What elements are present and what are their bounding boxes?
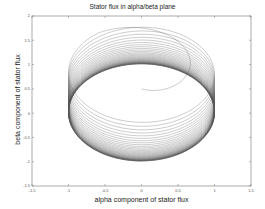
x-tick-label: -1.5 — [29, 188, 37, 193]
x-tick-label: 1.5 — [248, 188, 254, 193]
x-tick-label: 0.5 — [175, 188, 181, 193]
y-tick-label: -1 — [26, 159, 30, 164]
y-tick-label: 1 — [28, 62, 31, 67]
y-axis-label: beta component of stator flux — [14, 25, 21, 175]
x-tick-label: 1 — [213, 188, 216, 193]
y-tick-label: 2 — [28, 13, 31, 18]
x-tick-label: -0.5 — [102, 188, 110, 193]
y-tick-label: 1.5 — [24, 38, 30, 43]
y-tick-label: 0.5 — [24, 86, 30, 91]
y-tick-label: 0 — [28, 111, 31, 116]
x-tick-label: -1 — [67, 188, 71, 193]
chart-title: Stator flux in alpha/beta plane — [0, 3, 265, 10]
y-tick-label: -0.5 — [23, 135, 31, 140]
chart-figure: -1.5-1-0.500.511.5 -1.5-1-0.500.511.52 — [0, 0, 265, 209]
x-tick-label: 0 — [140, 188, 143, 193]
x-axis-label: alpha component of stator flux — [32, 196, 251, 203]
y-tick-label: -1.5 — [23, 183, 31, 188]
